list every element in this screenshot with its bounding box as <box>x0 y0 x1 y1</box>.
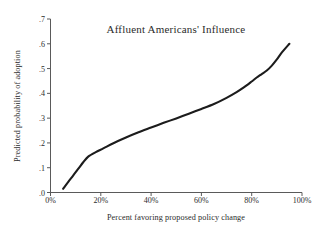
chart-title: Affluent Americans' Influence <box>107 23 246 35</box>
x-axis-title: Percent favoring proposed policy change <box>107 213 245 222</box>
x-tick-label: 0% <box>45 196 56 205</box>
x-tick-label: 40% <box>144 196 159 205</box>
chart-figure: Affluent Americans' Influence .0.1.2.3.4… <box>0 0 325 235</box>
y-tick-label: .5 <box>39 65 45 74</box>
x-tick-label: 80% <box>244 196 259 205</box>
y-tick-label: .0 <box>39 189 45 198</box>
y-tick-label: .1 <box>39 164 45 173</box>
y-axis-title: Predicted probability of adoption <box>13 50 22 162</box>
y-tick-label: .3 <box>39 114 45 123</box>
y-tick-label: .2 <box>39 139 45 148</box>
y-tick-label: .4 <box>39 89 45 98</box>
y-tick-label: .7 <box>39 15 45 24</box>
y-tick-label: .6 <box>39 40 45 49</box>
x-tick-label: 20% <box>93 196 108 205</box>
x-tick-label: 100% <box>293 196 312 205</box>
chart-canvas: Affluent Americans' Influence .0.1.2.3.4… <box>0 0 325 235</box>
x-tick-label: 60% <box>194 196 209 205</box>
